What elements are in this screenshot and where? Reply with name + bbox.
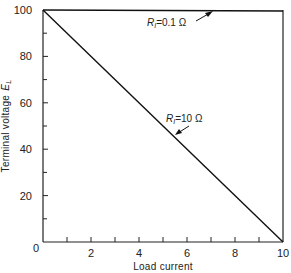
annotation-ri-10-ohm: RI=10 Ω [166,113,203,135]
x-ticks [67,237,259,242]
svg-text:60: 60 [20,97,32,109]
svg-text:100: 100 [14,4,32,16]
svg-text:40: 40 [20,143,32,155]
svg-text:2: 2 [88,247,94,259]
svg-text:80: 80 [20,50,32,62]
svg-text:20: 20 [20,190,32,202]
svg-text:RI=10 Ω: RI=10 Ω [166,113,203,125]
svg-text:10: 10 [277,247,289,259]
svg-text:8: 8 [232,247,238,259]
chart-canvas: 100 80 60 40 20 0 2 4 6 8 10 RI=0.1 Ω RI… [0,0,291,273]
series-ri-10-ohm-line [43,10,283,242]
arrow-head-icon [205,11,213,17]
x-tick-labels: 2 4 6 8 10 [88,247,289,259]
svg-text:6: 6 [184,247,190,259]
series-ri-0-1-ohm-line [43,10,283,11]
y-ticks [43,33,48,219]
svg-text:0: 0 [33,242,39,254]
arrow-head-icon [175,129,182,135]
svg-text:Terminal voltageEL: Terminal voltageEL [0,80,12,173]
svg-text:4: 4 [136,247,142,259]
y-tick-labels: 100 80 60 40 20 0 [14,4,39,254]
annotation-ri-0-1-ohm: RI=0.1 Ω [147,11,213,29]
x-axis-label: Load current [133,261,193,272]
svg-text:RI=0.1 Ω: RI=0.1 Ω [147,17,187,29]
y-axis-label: Terminal voltageEL [0,80,12,173]
